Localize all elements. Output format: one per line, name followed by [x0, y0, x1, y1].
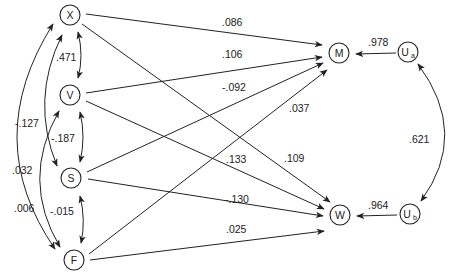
svg-text:-.092: -.092 — [222, 81, 246, 93]
svg-text:b: b — [413, 214, 417, 221]
svg-text:M: M — [335, 47, 344, 59]
node-v: V — [60, 85, 80, 105]
path-x-to-m: .086 — [86, 14, 322, 45]
path-f-to-w: .025 — [90, 223, 324, 260]
node-m: M — [329, 43, 349, 63]
corr-v-s: -.187 — [51, 112, 83, 162]
svg-text:U: U — [401, 46, 409, 58]
svg-text:X: X — [66, 9, 73, 21]
svg-text:-.015: -.015 — [50, 205, 74, 217]
svg-text:.025: .025 — [226, 223, 247, 235]
svg-text:.109: .109 — [284, 152, 305, 164]
node-w: W — [330, 205, 350, 225]
svg-text:-.127: -.127 — [15, 117, 39, 129]
svg-text:.032: .032 — [12, 164, 33, 176]
svg-text:.106: .106 — [222, 48, 243, 60]
node-ub: U b — [400, 204, 420, 224]
svg-text:a: a — [411, 52, 415, 59]
corr-x-f: .032 — [12, 24, 55, 249]
svg-text:F: F — [71, 254, 77, 266]
path-ub-to-w: .964 — [357, 199, 397, 216]
svg-text:.471: .471 — [56, 51, 77, 63]
svg-text:.133: .133 — [226, 153, 247, 165]
svg-text:.621: .621 — [409, 133, 430, 145]
node-f: F — [64, 250, 84, 270]
node-x: X — [60, 5, 80, 25]
node-ua: U a — [398, 42, 418, 62]
svg-text:-.187: -.187 — [51, 132, 75, 144]
corr-ua-ub: .621 — [409, 64, 445, 201]
svg-text:W: W — [335, 209, 345, 221]
path-ua-to-m: .978 — [356, 36, 396, 54]
path-diagram: .086 .106 -.092 .037 .109 .133 -.130 .02… — [0, 0, 452, 274]
svg-text:-.130: -.130 — [225, 193, 249, 205]
path-s-to-w: -.130 — [88, 179, 323, 216]
svg-text:.964: .964 — [368, 199, 389, 211]
svg-text:S: S — [67, 172, 74, 184]
svg-text:.978: .978 — [368, 36, 389, 48]
svg-text:.037: .037 — [289, 102, 310, 114]
svg-text:.006: .006 — [14, 202, 35, 214]
node-s: S — [61, 168, 81, 188]
corr-s-f: -.015 — [50, 196, 83, 243]
svg-text:V: V — [66, 89, 73, 101]
path-v-to-m: .106 — [86, 48, 322, 93]
corr-x-s: -.127 — [15, 35, 62, 166]
svg-text:.086: .086 — [222, 16, 243, 28]
svg-text:U: U — [403, 208, 411, 220]
